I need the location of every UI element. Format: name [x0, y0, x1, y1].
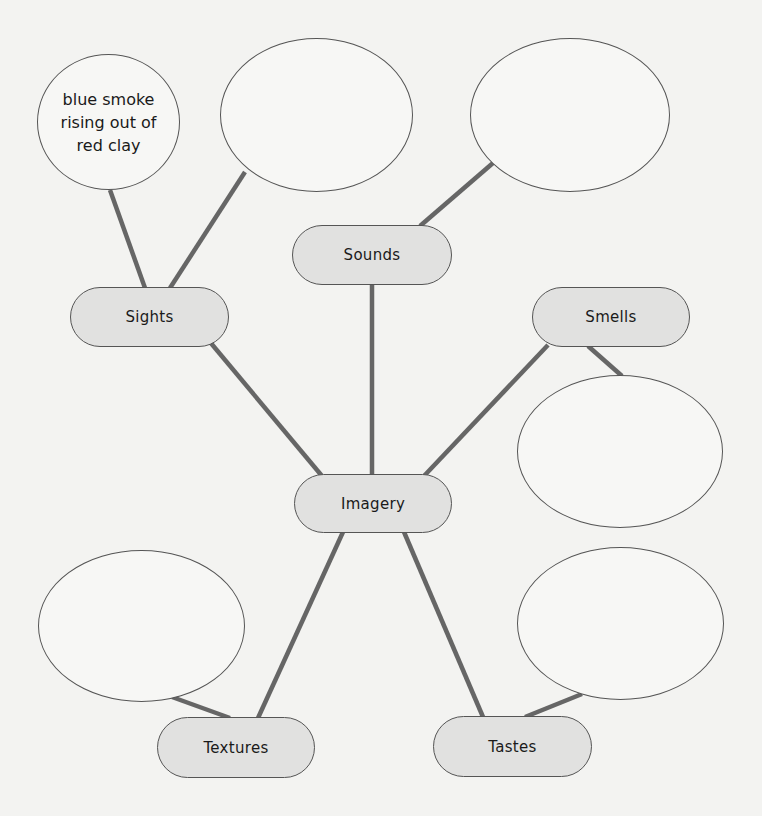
detail-bubble-sounds[interactable]: [470, 38, 670, 192]
category-textures: Textures: [157, 717, 315, 778]
category-sights: Sights: [70, 287, 229, 347]
category-label: Smells: [585, 308, 636, 326]
detail-bubble-tastes[interactable]: [517, 547, 724, 700]
connector-smells-bubble: [588, 346, 622, 376]
category-label: Tastes: [488, 738, 536, 756]
connector-sights-bubble1: [110, 190, 145, 288]
center-node-imagery: Imagery: [294, 474, 452, 533]
category-tastes: Tastes: [433, 716, 592, 777]
connector-imagery-textures: [258, 532, 343, 718]
category-smells: Smells: [532, 287, 690, 347]
detail-bubble-sights-2[interactable]: [220, 38, 413, 192]
center-label: Imagery: [341, 495, 405, 513]
detail-bubble-sights-1[interactable]: blue smoke rising out of red clay: [37, 54, 180, 190]
connector-sights-bubble2: [170, 172, 245, 288]
connector-tastes-bubble: [525, 694, 582, 717]
connector-imagery-sights: [210, 342, 322, 476]
bubble-text: blue smoke rising out of red clay: [48, 88, 169, 157]
connector-imagery-tastes: [404, 532, 483, 717]
category-label: Sights: [125, 308, 173, 326]
category-label: Sounds: [344, 246, 401, 264]
category-label: Textures: [203, 739, 268, 757]
detail-bubble-smells[interactable]: [517, 375, 723, 528]
detail-bubble-textures[interactable]: [38, 550, 245, 702]
connector-textures-bubble: [172, 697, 230, 718]
category-sounds: Sounds: [292, 225, 452, 285]
connector-sounds-bubble: [420, 163, 493, 226]
